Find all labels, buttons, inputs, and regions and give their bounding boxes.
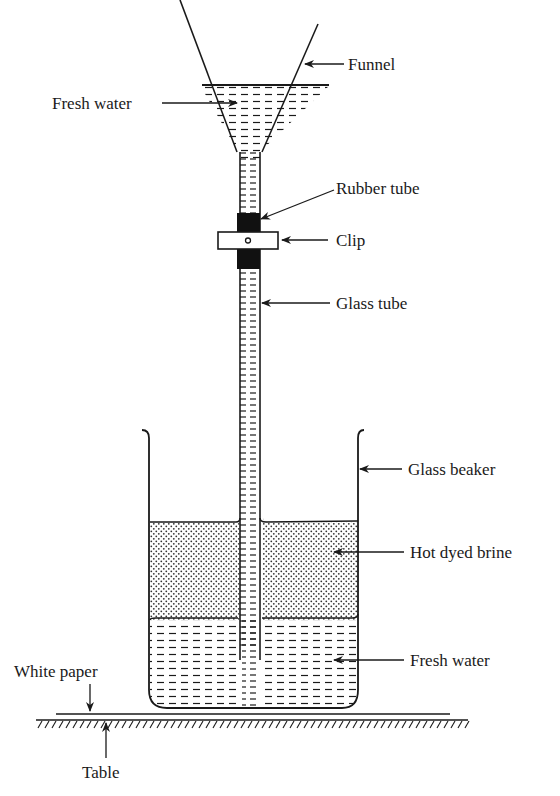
funnel bbox=[180, 0, 330, 160]
clip bbox=[218, 232, 278, 249]
label-glass-beaker: Glass beaker bbox=[408, 461, 495, 478]
label-table: Table bbox=[82, 764, 120, 781]
label-rubber-tube: Rubber tube bbox=[336, 180, 420, 197]
label-fresh-water-top: Fresh water bbox=[52, 95, 132, 112]
table bbox=[36, 720, 469, 728]
label-clip: Clip bbox=[336, 232, 365, 249]
fresh-water-lower bbox=[150, 614, 358, 708]
label-fresh-water-bottom: Fresh water bbox=[410, 652, 490, 669]
label-white-paper: White paper bbox=[14, 663, 98, 680]
label-funnel: Funnel bbox=[348, 56, 395, 73]
label-glass-tube: Glass tube bbox=[336, 295, 407, 312]
label-hot-dyed-brine: Hot dyed brine bbox=[410, 544, 512, 561]
